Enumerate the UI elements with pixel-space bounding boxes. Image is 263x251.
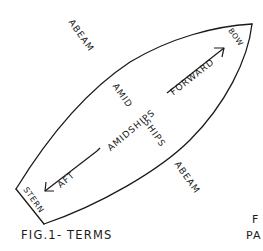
hull-top-edge — [16, 24, 252, 189]
figure-caption: FIG.1- TERMS — [21, 228, 113, 242]
partial-text-line1: F — [252, 213, 259, 226]
amidships-aft-connector — [97, 148, 100, 151]
boat-terms-diagram: ABEAM BOW FORWARD AMID SHIPS AMIDSHIPS A… — [0, 0, 263, 251]
partial-text-line2: PA — [246, 229, 261, 242]
